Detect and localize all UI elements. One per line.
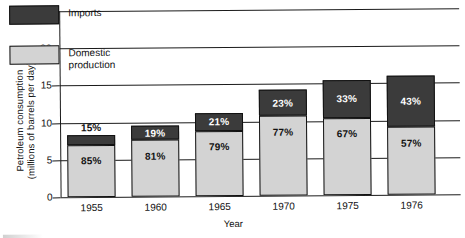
bar-segment-domestic-1965[interactable]: 79% bbox=[195, 130, 244, 196]
scan-artifact bbox=[3, 234, 43, 238]
y-axis-tick-label-15: 15 bbox=[26, 80, 52, 91]
bar-group-1970[interactable]: 77%23% bbox=[258, 9, 307, 195]
bar-label-imports-1970: 23% bbox=[273, 97, 294, 108]
y-axis-tick-10 bbox=[52, 123, 60, 124]
bar-group-1965[interactable]: 79%21% bbox=[194, 10, 243, 196]
petroleum-consumption-chart: Petroleum consumption (millions of barre… bbox=[0, 0, 465, 238]
bar-label-domestic-1965: 79% bbox=[209, 141, 230, 152]
bar-group-1955[interactable]: 85%15% bbox=[66, 11, 115, 197]
bar-label-domestic-1955: 85% bbox=[81, 155, 102, 166]
x-axis-tick-label-1960: 1960 bbox=[121, 201, 191, 213]
bar-segment-imports-1960[interactable]: 19% bbox=[131, 126, 179, 141]
bar-segment-imports-1976[interactable]: 43% bbox=[387, 75, 435, 127]
bar-group-1976[interactable]: 57%43% bbox=[386, 8, 435, 194]
y-axis-tick-label-5: 5 bbox=[26, 154, 52, 165]
y-axis-tick-5 bbox=[52, 160, 60, 161]
y-axis-tick-0 bbox=[53, 197, 61, 198]
legend-label-domestic-production: Domestic production bbox=[68, 45, 115, 70]
plot-area: 0510152025 85%15%81%19%79%21%77%23%67%33… bbox=[59, 8, 460, 197]
x-axis-tick-label-1970: 1970 bbox=[249, 200, 319, 212]
bar-group-1960[interactable]: 81%19% bbox=[130, 10, 179, 196]
bar-label-domestic-1975: 67% bbox=[337, 128, 358, 139]
bar-segment-domestic-1960[interactable]: 81% bbox=[131, 140, 179, 197]
bar-segment-imports-1975[interactable]: 33% bbox=[323, 80, 371, 118]
bar-label-imports-1976: 43% bbox=[401, 96, 422, 107]
bar-segment-imports-1955[interactable] bbox=[67, 135, 115, 145]
x-axis-tick-label-1976: 1976 bbox=[377, 199, 447, 211]
bar-segment-domestic-1955[interactable]: 85% bbox=[67, 145, 115, 197]
bar-series-container: 85%15%81%19%79%21%77%23%67%33%57%43% bbox=[59, 8, 460, 197]
legend-swatch-domestic-production bbox=[9, 45, 59, 64]
bar-segment-domestic-1975[interactable]: 67% bbox=[323, 118, 372, 196]
legend-item-imports: Imports bbox=[9, 5, 101, 25]
bar-label-imports-1955: 15% bbox=[67, 122, 115, 133]
bar-segment-imports-1965[interactable]: 21% bbox=[195, 113, 243, 131]
x-axis-tick-label-1955: 1955 bbox=[57, 202, 127, 214]
x-axis-tick-labels: 195519601965197019751976 bbox=[0, 0, 464, 2]
bar-label-imports-1975: 33% bbox=[336, 93, 357, 104]
y-axis-tick-label-10: 10 bbox=[26, 117, 52, 128]
x-axis-title: Year bbox=[1, 216, 465, 231]
bar-segment-domestic-1976[interactable]: 57% bbox=[387, 127, 436, 195]
legend-swatch-imports bbox=[9, 5, 59, 24]
bar-label-imports-1960: 19% bbox=[145, 127, 166, 138]
bar-label-domestic-1970: 77% bbox=[273, 126, 294, 137]
legend-label-imports: Imports bbox=[68, 5, 101, 19]
x-axis-tick-label-1975: 1975 bbox=[313, 200, 383, 212]
y-axis-tick-15 bbox=[52, 86, 60, 87]
bar-label-imports-1965: 21% bbox=[209, 116, 230, 127]
y-axis-tick-label-0: 0 bbox=[27, 191, 53, 202]
bar-label-domestic-1976: 57% bbox=[401, 137, 422, 148]
bar-label-domestic-1960: 81% bbox=[145, 150, 166, 161]
legend-item-domestic-production: Domestic production bbox=[9, 45, 115, 71]
x-axis-tick-label-1965: 1965 bbox=[185, 201, 255, 213]
bar-segment-domestic-1970[interactable]: 77% bbox=[259, 116, 308, 196]
bar-group-1975[interactable]: 67%33% bbox=[322, 9, 371, 195]
bar-segment-imports-1970[interactable]: 23% bbox=[259, 90, 307, 116]
